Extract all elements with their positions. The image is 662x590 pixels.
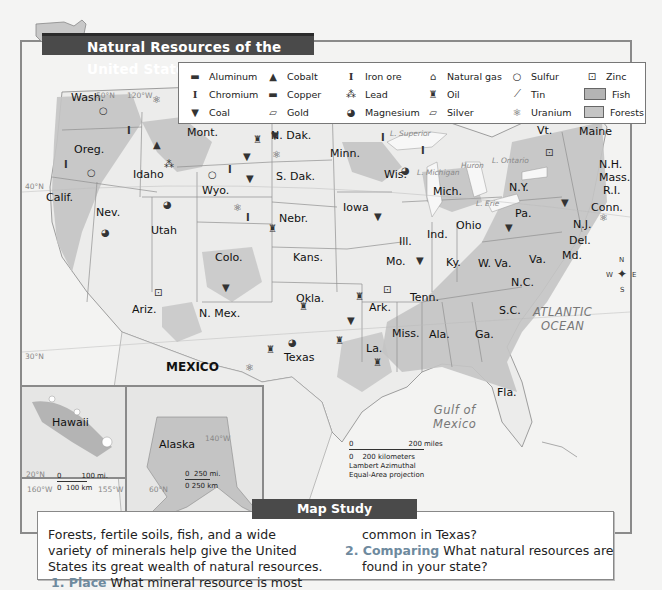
magnesium-icon: ◕ bbox=[163, 200, 172, 210]
oil-icon: ♜ bbox=[266, 345, 275, 355]
lead-icon: ⁂ bbox=[164, 160, 174, 170]
magnesium-icon: ◕ bbox=[401, 166, 410, 176]
coordinate-label: 50°N bbox=[96, 91, 115, 100]
zinc-icon: ⊡ bbox=[383, 285, 391, 295]
state-label: Mass. bbox=[599, 171, 630, 184]
coordinate-label: 40°N bbox=[25, 182, 44, 191]
coordinate-label: 140°W bbox=[205, 434, 230, 443]
lake-label: L. Ontario bbox=[492, 156, 529, 165]
state-label: Wyo. bbox=[202, 184, 229, 197]
legend-item-oil: ♜Oil bbox=[425, 85, 509, 103]
lake-label: L. Erie bbox=[476, 199, 499, 208]
cobalt-icon: ▲ bbox=[153, 140, 161, 150]
zinc-icon: ⊡ bbox=[154, 288, 162, 298]
legend-item-chromium: IChromium bbox=[187, 85, 265, 103]
sulfur-icon: ○ bbox=[509, 70, 525, 82]
legend-item-aluminum: ▬Aluminum bbox=[187, 67, 265, 85]
fish-swatch bbox=[584, 88, 606, 100]
legend-item-cobalt: ▲Cobalt bbox=[265, 67, 343, 85]
legend-item-natural-gas: ⌂Natural gas bbox=[425, 67, 509, 85]
state-label: N.C. bbox=[511, 276, 534, 289]
question-2: 2. Comparing What natural resources are bbox=[345, 543, 615, 559]
coal-icon: ▼ bbox=[561, 198, 569, 208]
state-label: Ill. bbox=[399, 235, 412, 248]
state-label: Alaska bbox=[159, 438, 195, 451]
lake-label: Huron bbox=[461, 161, 484, 170]
water-body-label: Gulf of Mexico bbox=[433, 403, 476, 431]
uranium-icon: ⚛ bbox=[245, 363, 254, 373]
magnesium-icon: ◕ bbox=[288, 338, 297, 348]
state-label: La. bbox=[366, 342, 382, 355]
state-label: W. Va. bbox=[478, 257, 512, 270]
coal-icon: ▼ bbox=[222, 283, 230, 293]
iron-ore-icon: I bbox=[421, 146, 425, 156]
state-label: Pa. bbox=[515, 207, 531, 220]
state-label: Kans. bbox=[293, 251, 323, 264]
lake-label: L. Michigan bbox=[417, 168, 460, 177]
iron-ore-icon: I bbox=[246, 213, 250, 223]
sulfur-icon: ○ bbox=[208, 170, 217, 180]
legend-item-forests: Forests bbox=[584, 103, 644, 121]
legend-item-magnesium: ◕Magnesium bbox=[343, 103, 425, 121]
country-label: MEXICO bbox=[166, 360, 219, 374]
iron-ore-icon: I bbox=[228, 165, 232, 175]
magnesium-icon: ◕ bbox=[343, 106, 359, 118]
legend-item-silver: ▱Silver bbox=[425, 103, 509, 121]
state-label: Maine bbox=[579, 125, 612, 138]
hawaii-scale: 0100 mi. 0 100 km bbox=[57, 472, 108, 493]
state-label: Nebr. bbox=[279, 212, 308, 225]
question-1: 1. Place What mineral resource is most bbox=[48, 575, 348, 590]
compass-star-icon: ✦ bbox=[617, 267, 627, 281]
main-scale: 0200 miles 0 200 kilometers Lambert Azim… bbox=[349, 440, 443, 480]
oil-icon: ♜ bbox=[373, 358, 382, 368]
coordinate-label: 120°W bbox=[127, 91, 152, 100]
coal-icon: ▼ bbox=[416, 256, 424, 266]
hawaii-inset bbox=[20, 385, 129, 479]
legend-item-uranium: ⚛Uranium bbox=[509, 103, 584, 121]
oil-icon: ♜ bbox=[299, 302, 308, 312]
legend-item-iron-ore: IIron ore bbox=[343, 67, 425, 85]
iron-ore-icon: I bbox=[381, 133, 385, 143]
coal-icon: ▼ bbox=[271, 131, 279, 141]
map-study-title: Map Study bbox=[252, 499, 417, 519]
state-label: Texas bbox=[284, 351, 314, 364]
natural-gas-icon: ⌂ bbox=[425, 70, 441, 82]
state-label: Colo. bbox=[215, 251, 243, 264]
coal-icon: ▼ bbox=[243, 152, 251, 162]
coal-icon: ▼ bbox=[505, 223, 513, 233]
oil-icon: ♜ bbox=[335, 336, 344, 346]
legend-item-zinc: ⊡Zinc bbox=[584, 67, 644, 85]
uranium-icon: ⚛ bbox=[509, 106, 525, 118]
iron-ore-icon: I bbox=[127, 126, 131, 136]
state-label: Utah bbox=[151, 224, 177, 237]
state-label: Hawaii bbox=[52, 416, 89, 429]
iron-ore-icon: I bbox=[64, 160, 68, 170]
map-study-left: Forests, fertile soils, fish, and a wide… bbox=[48, 527, 348, 590]
map-legend: ▬Aluminum ▲Cobalt IIron ore ⌂Natural gas… bbox=[178, 62, 646, 124]
coordinate-label: 160°W bbox=[27, 485, 52, 494]
state-label: Fla. bbox=[497, 386, 517, 399]
lead-icon: ⁂ bbox=[343, 88, 359, 100]
coal-icon: ▼ bbox=[347, 316, 355, 326]
oil-icon: ♜ bbox=[253, 135, 262, 145]
state-label: Ariz. bbox=[132, 303, 156, 316]
state-label: S. Dak. bbox=[276, 170, 315, 183]
state-label: N. Mex. bbox=[199, 307, 240, 320]
sulfur-icon: ○ bbox=[99, 106, 108, 116]
state-label: Oreg. bbox=[74, 143, 104, 156]
state-label: R.I. bbox=[603, 184, 621, 197]
legend-item-tin: ⟋Tin bbox=[509, 85, 584, 103]
legend-item-copper: ▬Copper bbox=[265, 85, 343, 103]
legend-item-gold: ▱Gold bbox=[265, 103, 343, 121]
gold-icon: ▱ bbox=[265, 106, 281, 118]
hawaii-shape bbox=[22, 387, 127, 477]
state-label: Ark. bbox=[369, 301, 391, 314]
compass-rose: N W ✦ E S bbox=[606, 256, 642, 298]
state-label: Calif. bbox=[46, 191, 73, 204]
state-label: Minn. bbox=[330, 147, 360, 160]
legend-item-fish: Fish bbox=[584, 85, 644, 103]
coordinate-label: 20°N bbox=[26, 470, 45, 479]
map-title: Natural Resources of the United States bbox=[42, 33, 314, 55]
oil-icon: ♜ bbox=[355, 292, 364, 302]
lake-label: L. Superior bbox=[390, 129, 431, 138]
